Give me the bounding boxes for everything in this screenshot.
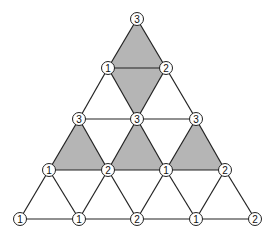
vertex-label-v0: 3 xyxy=(131,13,144,26)
vertex-number: 1 xyxy=(76,214,82,225)
vertex-number: 2 xyxy=(134,214,140,225)
vertex-number: 1 xyxy=(105,63,111,74)
grid-edge xyxy=(79,68,108,119)
shaded-triangles xyxy=(49,19,225,170)
vertex-number: 2 xyxy=(222,165,228,176)
triangle-labeling-diagram: 312333121211212 xyxy=(0,0,274,239)
vertex-label-v2: 2 xyxy=(160,62,173,75)
vertex-label-v9: 2 xyxy=(219,164,232,177)
grid-edge xyxy=(137,170,166,219)
shaded-triangle xyxy=(108,119,166,170)
vertex-label-v6: 1 xyxy=(43,164,56,177)
vertex-number: 3 xyxy=(76,114,82,125)
vertex-label-v8: 1 xyxy=(160,164,173,177)
shaded-triangle xyxy=(108,68,166,119)
vertex-number: 3 xyxy=(134,14,140,25)
shaded-triangle xyxy=(166,119,225,170)
shaded-triangle xyxy=(49,119,108,170)
vertex-number: 2 xyxy=(105,165,111,176)
vertex-label-v13: 1 xyxy=(190,213,203,226)
vertex-label-v4: 3 xyxy=(131,113,144,126)
grid-edge xyxy=(49,170,79,219)
vertex-label-v14: 2 xyxy=(249,213,262,226)
vertex-label-v3: 3 xyxy=(73,113,86,126)
vertex-number: 2 xyxy=(163,63,169,74)
vertex-number: 1 xyxy=(163,165,169,176)
vertex-label-v11: 1 xyxy=(73,213,86,226)
grid-edge xyxy=(79,170,108,219)
grid-edge xyxy=(20,170,49,219)
vertex-number: 3 xyxy=(134,114,140,125)
grid-edge xyxy=(196,170,225,219)
vertex-number: 3 xyxy=(193,114,199,125)
grid-edge xyxy=(166,68,196,119)
vertex-number: 2 xyxy=(252,214,258,225)
vertex-number: 1 xyxy=(46,165,52,176)
vertex-label-v10: 1 xyxy=(14,213,27,226)
vertex-label-v5: 3 xyxy=(190,113,203,126)
shaded-triangle xyxy=(108,19,166,68)
vertex-number: 1 xyxy=(193,214,199,225)
grid-edge xyxy=(225,170,255,219)
vertex-label-v12: 2 xyxy=(131,213,144,226)
vertex-number: 1 xyxy=(17,214,23,225)
grid-edge xyxy=(108,170,137,219)
vertex-label-v7: 2 xyxy=(102,164,115,177)
vertex-label-v1: 1 xyxy=(102,62,115,75)
grid-edge xyxy=(166,170,196,219)
